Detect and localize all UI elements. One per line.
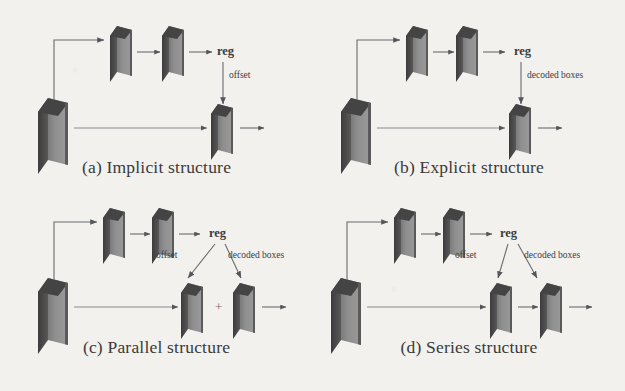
panel-c-reg-label: reg (209, 226, 226, 241)
panel-a-reg-label: reg (217, 44, 234, 59)
panel-c-caption: (c) Parallel structure (0, 337, 313, 358)
panel-a-branch-slab-2 (162, 26, 184, 82)
panel-d-branch-slab-1 (394, 208, 416, 264)
panel-c-combine-plus: + (215, 299, 222, 315)
panel-b-branch-slab-2 (456, 26, 478, 82)
panel-c-branch-slab-1 (103, 208, 125, 264)
panel-c-artwork (38, 208, 286, 354)
panel-d-artwork (331, 208, 592, 354)
panel-a-output-slab (211, 104, 233, 160)
panel-b-branch-slab-1 (406, 26, 428, 82)
panel-c-branch-arrow (54, 222, 97, 280)
panel-c-offset-label: offset (156, 250, 177, 260)
panel-c-offset-arrow (188, 244, 215, 278)
panel-d-offset-label: offset (455, 250, 476, 260)
panel-a-caption: (a) Implicit structure (0, 157, 313, 178)
panel-d-reg-label: reg (500, 226, 517, 241)
panel-a-branch-arrow (54, 40, 104, 100)
panel-b-reg-label: reg (514, 44, 531, 59)
panel-d-decoded-boxes-label: decoded boxes (524, 250, 580, 260)
panel-a-branch-slab-1 (110, 26, 132, 82)
panel-b-decoded-boxes-label: decoded boxes (527, 70, 583, 80)
diagram-canvas (0, 0, 625, 391)
panel-b-output-slab (509, 104, 531, 160)
panel-d-output-slab-offset (490, 283, 512, 339)
panel-b-caption: (b) Explicit structure (313, 157, 625, 178)
panel-d-branch-arrow (347, 222, 388, 280)
panel-d-offset-arrow (498, 244, 508, 278)
panel-c-decoded-boxes-label: decoded boxes (228, 250, 284, 260)
panel-d-caption: (d) Series structure (313, 337, 625, 358)
panel-b-branch-arrow (357, 40, 400, 100)
panel-c-output-slab-decoded (233, 283, 255, 339)
figure-four-detection-head-structures: reg offset (a) Implicit structure reg de… (0, 0, 625, 391)
panel-d-output-slab-decoded (540, 283, 562, 339)
panel-c-output-slab-offset (181, 283, 203, 339)
panel-a-offset-label: offset (229, 70, 250, 80)
